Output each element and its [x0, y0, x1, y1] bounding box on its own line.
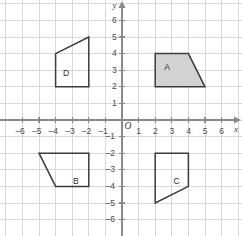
x-tick-label-pos4: 4 [186, 127, 191, 136]
shape-label-c: C [173, 177, 179, 186]
y-tick-label-pos2: 2 [112, 82, 117, 91]
y-tick-label-neg2: –2 [106, 149, 115, 158]
y-tick-label-pos1: 1 [112, 99, 117, 108]
y-tick-label-neg3: –3 [106, 165, 115, 174]
y-tick-label-pos3: 3 [112, 66, 117, 75]
shape-label-a: A [164, 63, 170, 72]
shape-a [155, 54, 205, 87]
x-tick-label-neg4: –4 [49, 127, 58, 136]
coordinate-grid-svg [0, 0, 242, 236]
x-tick-label-neg2: –2 [82, 127, 91, 136]
x-tick-label-neg6: –6 [15, 127, 24, 136]
grid-lines [0, 0, 242, 236]
y-tick-label-pos4: 4 [112, 49, 117, 58]
x-tick-label-neg3: –3 [65, 127, 74, 136]
x-tick-label-pos1: 1 [136, 127, 141, 136]
x-tick-label-pos5: 5 [203, 127, 208, 136]
x-tick-label-pos2: 2 [153, 127, 158, 136]
x-tick-label-neg5: –5 [32, 127, 41, 136]
y-tick-label-neg4: –4 [106, 182, 115, 191]
y-tick-label-neg1: –1 [106, 132, 115, 141]
shape-label-b: B [73, 177, 79, 186]
coordinate-plane-figure: –6–5–4–3–2–1123456654321–1–2–3–4–5–6OxyA… [0, 0, 242, 236]
y-tick-label-pos6: 6 [112, 16, 117, 25]
shape-label-d: D [63, 69, 69, 78]
origin-label: O [125, 122, 132, 132]
y-axis-label: y [113, 1, 117, 10]
y-tick-label-pos5: 5 [112, 33, 117, 42]
y-tick-label-neg5: –5 [106, 199, 115, 208]
x-tick-label-pos3: 3 [170, 127, 175, 136]
y-tick-label-neg6: –6 [106, 215, 115, 224]
x-axis-label: x [234, 125, 238, 134]
x-tick-label-pos6: 6 [219, 127, 224, 136]
